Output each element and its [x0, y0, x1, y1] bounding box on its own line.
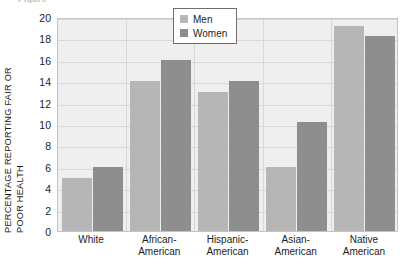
- bar-women-white: [93, 167, 123, 231]
- bar-women-native-american: [365, 36, 395, 231]
- y-axis-tick-4: 4: [45, 183, 51, 195]
- bar-women-hispanic-american: [229, 81, 259, 231]
- y-axis-title-line-2: POOR HEALTH: [15, 165, 25, 233]
- y-axis-tick-2: 2: [45, 205, 51, 217]
- bar-chart-figure: Figure PERCENTAGE REPORTING FAIR OR POOR…: [0, 0, 401, 259]
- vertical-gridline-3: [263, 19, 264, 231]
- x-axis-category-labels: WhiteAfrican-AmericanHispanic-AmericanAs…: [57, 234, 398, 259]
- bar-men-african-american: [130, 81, 160, 231]
- bar-women-african-american: [161, 60, 191, 231]
- legend-swatch-men-icon: [180, 15, 188, 23]
- legend-label-women: Women: [193, 28, 227, 39]
- y-axis-tick-8: 8: [45, 140, 51, 152]
- legend-item-men: Men: [180, 12, 236, 26]
- bar-men-asian-american: [266, 167, 296, 231]
- chart-legend: Men Women: [173, 8, 237, 44]
- y-axis-tick-12: 12: [39, 98, 51, 110]
- y-axis-tick-16: 16: [39, 55, 51, 67]
- bar-men-native-american: [334, 26, 364, 231]
- y-axis-tick-6: 6: [45, 162, 51, 174]
- bar-men-white: [62, 178, 92, 232]
- bar-men-hispanic-american: [198, 92, 228, 231]
- y-axis-tick-10: 10: [39, 119, 51, 131]
- vertical-gridline-1: [126, 19, 127, 231]
- plot-area: [57, 18, 398, 232]
- y-axis-title-line-1: PERCENTAGE REPORTING FAIR OR: [3, 67, 13, 233]
- y-axis-tick-14: 14: [39, 76, 51, 88]
- x-axis-label-native-american: NativeAmerican: [314, 234, 401, 257]
- bar-women-asian-american: [297, 122, 327, 231]
- y-axis-tick-20: 20: [39, 12, 51, 24]
- y-axis-tick-labels: 02468101214161820: [34, 0, 54, 259]
- legend-item-women: Women: [180, 26, 236, 40]
- y-axis-title: PERCENTAGE REPORTING FAIR OR POOR HEALTH: [0, 18, 34, 233]
- legend-label-men: Men: [193, 14, 212, 25]
- legend-swatch-women-icon: [180, 29, 188, 37]
- vertical-gridline-2: [194, 19, 195, 231]
- vertical-gridline-4: [331, 19, 332, 231]
- y-axis-tick-18: 18: [39, 33, 51, 45]
